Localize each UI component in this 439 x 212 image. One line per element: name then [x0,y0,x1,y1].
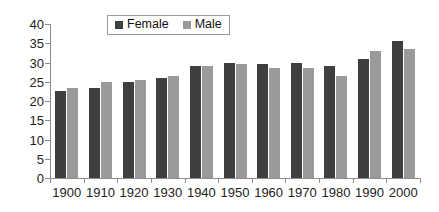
bar-female-2000 [392,41,403,178]
bar-female-1970 [291,63,302,179]
y-axis-label: 25 [30,75,44,88]
y-axis-line [50,24,51,179]
y-axis-tick [45,63,50,64]
x-axis-label: 1940 [187,186,216,199]
x-axis-label: 1990 [355,186,384,199]
x-axis-tick [50,178,51,183]
x-axis-label: 1960 [254,186,283,199]
bar-male-1900 [67,88,78,178]
bar-male-1930 [168,76,179,178]
bar-male-1910 [101,82,112,178]
bar-female-1910 [89,88,100,178]
y-axis-label: 5 [37,152,44,165]
x-axis-tick [285,178,286,183]
bar-male-1940 [202,66,213,178]
x-axis-label: 1930 [153,186,182,199]
x-axis-tick [252,178,253,183]
bar-male-1950 [236,64,247,178]
x-axis-tick [319,178,320,183]
y-axis-tick [45,43,50,44]
y-axis-label: 0 [37,172,44,185]
bar-male-1990 [370,51,381,178]
x-axis-tick [420,178,421,183]
bar-male-1920 [135,80,146,178]
y-axis-tick [45,24,50,25]
y-axis-tick [45,159,50,160]
x-axis-tick [185,178,186,183]
x-axis-tick [386,178,387,183]
bar-female-1900 [55,91,66,178]
y-axis-label: 30 [30,56,44,69]
bar-male-1970 [303,68,314,178]
bar-female-1920 [123,82,134,178]
y-axis-tick [45,82,50,83]
y-axis-tick [45,140,50,141]
bar-female-1940 [190,66,201,178]
y-axis-label: 15 [30,114,44,127]
x-axis-label: 1910 [86,186,115,199]
y-axis-label: 10 [30,133,44,146]
x-axis-label: 1900 [52,186,81,199]
bar-female-1930 [156,78,167,178]
plot-area: 0510152025303540 19001910192019301940195… [50,24,420,178]
x-axis-label: 1970 [288,186,317,199]
bar-female-1950 [224,63,235,179]
y-axis-tick [45,120,50,121]
x-axis-label: 2000 [389,186,418,199]
bar-male-1960 [269,68,280,178]
x-axis-label: 1980 [321,186,350,199]
x-axis-tick [218,178,219,183]
x-axis-line [50,178,421,179]
x-axis-label: 1920 [120,186,149,199]
y-axis-tick [45,101,50,102]
bar-chart: Female Male 0510152025303540 19001910192… [0,0,439,212]
x-axis-tick [117,178,118,183]
x-axis-tick [84,178,85,183]
bar-male-1980 [336,76,347,178]
y-axis-label: 20 [30,95,44,108]
bar-male-2000 [404,49,415,178]
y-axis-label: 40 [30,18,44,31]
y-axis-label: 35 [30,37,44,50]
bar-female-1990 [358,59,369,178]
x-axis-label: 1950 [221,186,250,199]
bar-female-1960 [257,64,268,178]
bar-female-1980 [324,66,335,178]
x-axis-tick [151,178,152,183]
x-axis-tick [353,178,354,183]
